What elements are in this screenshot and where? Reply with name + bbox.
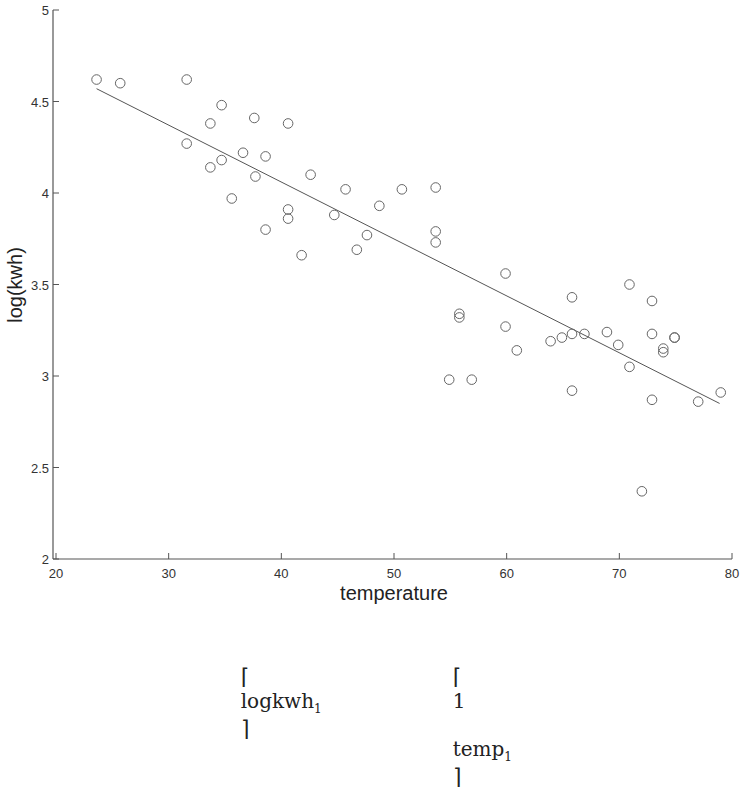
data-point bbox=[512, 346, 522, 356]
data-point bbox=[261, 225, 271, 235]
data-point bbox=[352, 245, 362, 255]
right-bracket: ⌉ bbox=[453, 764, 462, 789]
right-bracket: ⌉ bbox=[241, 716, 250, 741]
left-bracket: ⌈ bbox=[453, 664, 462, 689]
data-point bbox=[546, 336, 556, 346]
fit-line bbox=[97, 89, 720, 404]
regression-line bbox=[97, 89, 720, 404]
y-tick-label: 4.5 bbox=[31, 95, 49, 110]
data-point bbox=[182, 75, 192, 85]
data-point bbox=[467, 375, 477, 385]
data-point bbox=[251, 172, 261, 182]
data-point bbox=[283, 205, 293, 215]
data-point bbox=[329, 210, 339, 220]
data-point bbox=[647, 395, 657, 405]
left-bracket: ⌈ bbox=[241, 664, 250, 689]
data-point bbox=[613, 340, 623, 350]
scatter-plot: 20304050607080 22.533.544.55 temperature… bbox=[0, 0, 746, 630]
x-tick-label: 30 bbox=[161, 566, 175, 581]
y-axis-title: log(kwh) bbox=[4, 247, 26, 323]
x-tick-label: 40 bbox=[274, 566, 288, 581]
data-point bbox=[567, 329, 577, 339]
data-points bbox=[92, 75, 726, 496]
axes bbox=[53, 10, 732, 559]
data-point bbox=[716, 388, 726, 398]
rhs-col1: 1 bbox=[453, 689, 466, 713]
x-tick-label: 80 bbox=[725, 566, 739, 581]
lhs-subscript: 1 bbox=[314, 702, 322, 716]
data-point bbox=[306, 170, 316, 180]
data-point bbox=[431, 238, 441, 248]
y-tick-label: 3 bbox=[42, 369, 49, 384]
data-point bbox=[238, 148, 248, 158]
data-point bbox=[693, 397, 703, 407]
data-point bbox=[206, 119, 216, 129]
data-point bbox=[557, 333, 567, 343]
data-point bbox=[249, 113, 259, 123]
data-point bbox=[625, 362, 635, 372]
rhs-col2: temp bbox=[453, 737, 505, 761]
y-axis-ticks: 22.533.544.55 bbox=[31, 3, 59, 567]
data-point bbox=[670, 333, 680, 343]
data-point bbox=[362, 230, 372, 240]
data-point bbox=[182, 139, 192, 149]
y-tick-label: 2 bbox=[42, 552, 49, 567]
data-point bbox=[637, 486, 647, 496]
data-point bbox=[444, 375, 454, 385]
data-point bbox=[647, 296, 657, 306]
data-point bbox=[431, 227, 441, 237]
data-point bbox=[501, 322, 511, 332]
data-point bbox=[227, 194, 237, 204]
matrix-equation-lhs: ⌈ logkwh1 ⌉ bbox=[228, 640, 322, 741]
data-point bbox=[431, 183, 441, 193]
x-tick-label: 50 bbox=[387, 566, 401, 581]
data-point bbox=[283, 119, 293, 129]
data-point bbox=[625, 280, 635, 290]
data-point bbox=[297, 250, 307, 260]
y-tick-label: 5 bbox=[42, 3, 49, 18]
x-axis-title: temperature bbox=[340, 582, 448, 604]
data-point bbox=[115, 78, 125, 88]
x-tick-label: 20 bbox=[49, 566, 63, 581]
rhs-subscript: 1 bbox=[504, 750, 512, 764]
data-point bbox=[375, 201, 385, 211]
data-point bbox=[567, 293, 577, 303]
lhs-entry: logkwh bbox=[241, 689, 314, 713]
matrix-equation-rhs: ⌈ 1 temp1 ⌉ bbox=[440, 640, 512, 789]
data-point bbox=[217, 155, 227, 165]
data-point bbox=[261, 152, 271, 162]
y-tick-label: 3.5 bbox=[31, 278, 49, 293]
data-point bbox=[647, 329, 657, 339]
data-point bbox=[602, 327, 612, 337]
y-tick-label: 2.5 bbox=[31, 461, 49, 476]
data-point bbox=[567, 386, 577, 396]
data-point bbox=[501, 269, 511, 279]
data-point bbox=[341, 185, 351, 195]
data-point bbox=[397, 185, 407, 195]
x-tick-label: 70 bbox=[612, 566, 626, 581]
data-point bbox=[217, 100, 227, 110]
x-tick-label: 60 bbox=[499, 566, 513, 581]
data-point bbox=[92, 75, 102, 85]
data-point bbox=[283, 214, 293, 224]
data-point bbox=[206, 163, 216, 173]
y-tick-label: 4 bbox=[42, 186, 49, 201]
x-axis-ticks: 20304050607080 bbox=[49, 553, 739, 581]
